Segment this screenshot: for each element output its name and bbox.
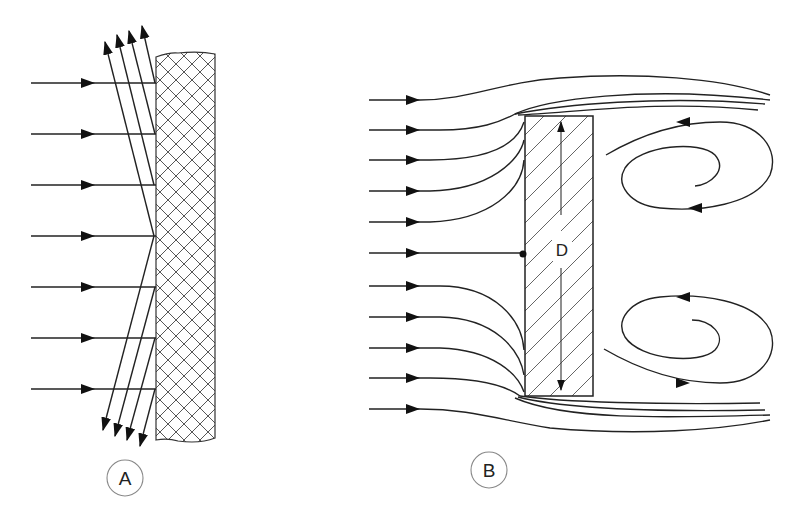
deflected-up-arrows — [105, 26, 155, 236]
panel-a-label: A — [119, 468, 132, 489]
incoming-flow-arrows — [31, 78, 156, 394]
crosshatched-wall — [156, 52, 215, 442]
dimension-label: D — [556, 241, 568, 260]
upper-wake-vortex — [606, 117, 773, 213]
deflected-down-arrows — [103, 236, 155, 446]
lower-wake-vortex — [604, 292, 773, 388]
panel-b-label: B — [483, 460, 496, 481]
panel-a: A — [31, 26, 215, 496]
diagram-canvas: A D — [0, 0, 801, 521]
stagnation-point — [520, 251, 527, 258]
panel-b: D — [369, 76, 773, 488]
